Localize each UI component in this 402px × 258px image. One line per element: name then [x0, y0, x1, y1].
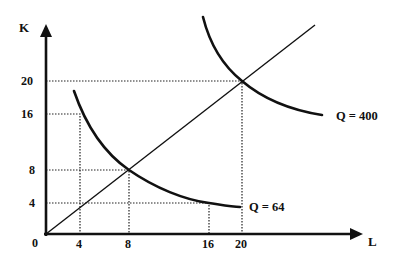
x-tick-20: 20	[235, 237, 247, 251]
y-axis-arrow-icon	[40, 24, 52, 37]
y-tick-16: 16	[21, 107, 33, 121]
y-tick-20: 20	[21, 74, 33, 88]
isoquant-diagram: K L 0 20 16 8 4 4 8 16 20 Q = 64 Q = 400	[0, 0, 402, 258]
y-axis-label: K	[19, 20, 30, 35]
x-tick-16: 16	[202, 237, 214, 251]
x-axis-label: L	[368, 234, 377, 249]
guide-16-4	[46, 203, 209, 234]
isoquant-q400-label: Q = 400	[336, 109, 378, 123]
y-tick-8: 8	[29, 163, 35, 177]
x-tick-4: 4	[76, 237, 82, 251]
guide-4-16	[46, 114, 80, 234]
x-axis-arrow-icon	[350, 228, 363, 240]
x-tick-8: 8	[125, 237, 131, 251]
isoquant-q64	[74, 91, 240, 207]
y-tick-4: 4	[29, 196, 35, 210]
isoquant-q64-label: Q = 64	[249, 200, 285, 214]
axes	[40, 24, 363, 240]
origin-label: 0	[32, 236, 38, 250]
